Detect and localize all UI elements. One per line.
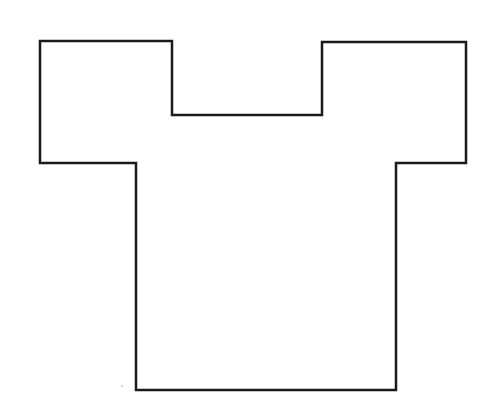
diagram-canvas xyxy=(0,0,493,418)
stray-mark xyxy=(121,385,123,387)
t-shape-outline xyxy=(40,41,466,390)
